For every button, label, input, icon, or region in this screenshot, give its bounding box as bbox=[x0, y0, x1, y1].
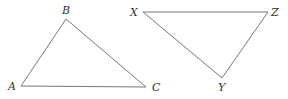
triangle-abc-shape bbox=[21, 19, 146, 87]
triangle-abc: A B C bbox=[7, 4, 161, 94]
vertex-label-y: Y bbox=[218, 81, 227, 94]
vertex-label-c: C bbox=[152, 81, 161, 94]
triangles-diagram: A B C X Y Z bbox=[0, 0, 288, 99]
triangle-xyz-shape bbox=[143, 12, 268, 78]
vertex-label-x: X bbox=[129, 6, 139, 19]
vertex-label-z: Z bbox=[270, 6, 279, 19]
vertex-label-a: A bbox=[7, 80, 16, 93]
vertex-label-b: B bbox=[61, 4, 70, 17]
